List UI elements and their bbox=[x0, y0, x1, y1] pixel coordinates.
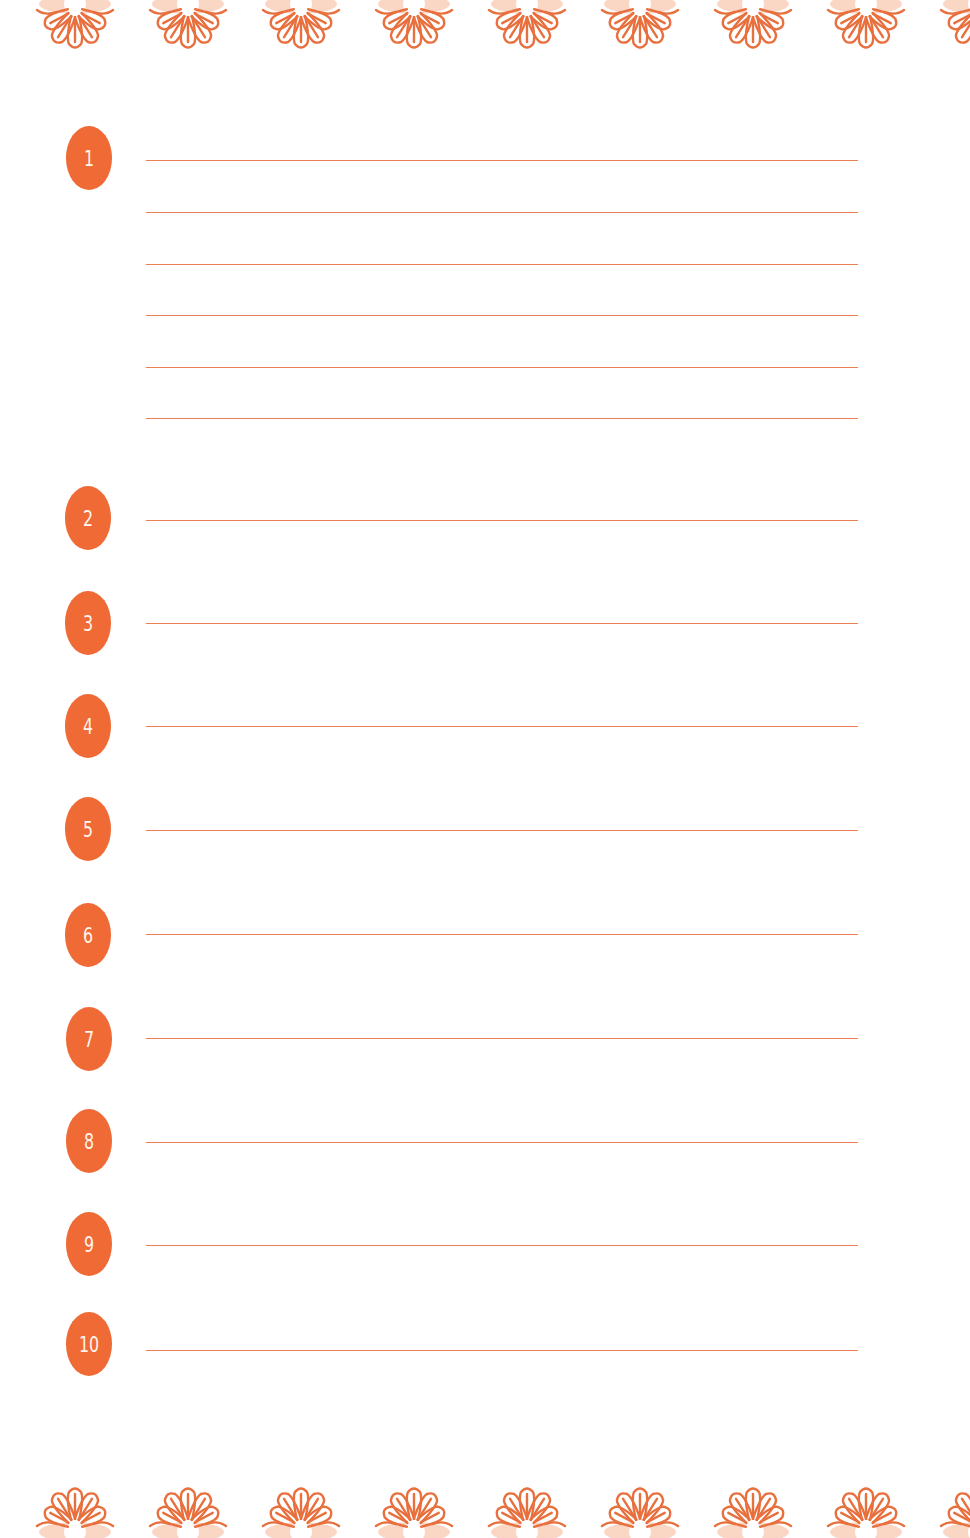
write-line-3[interactable] bbox=[146, 623, 858, 624]
write-line-1e[interactable] bbox=[146, 367, 858, 368]
write-line-10[interactable] bbox=[146, 1350, 858, 1351]
number-badge-7: 7 bbox=[66, 1007, 112, 1071]
number-badge-4: 4 bbox=[65, 694, 111, 758]
number-badge-10: 10 bbox=[66, 1312, 112, 1376]
write-line-7[interactable] bbox=[146, 1038, 858, 1039]
write-line-1b[interactable] bbox=[146, 212, 858, 213]
number-badge-6: 6 bbox=[65, 903, 111, 967]
write-line-1a[interactable] bbox=[146, 160, 858, 161]
write-line-1d[interactable] bbox=[146, 315, 858, 316]
write-line-2[interactable] bbox=[146, 520, 858, 521]
bottom-flower-border bbox=[0, 1470, 970, 1538]
write-line-1c[interactable] bbox=[146, 264, 858, 265]
write-line-5[interactable] bbox=[146, 830, 858, 831]
write-line-4[interactable] bbox=[146, 726, 858, 727]
number-badge-5: 5 bbox=[65, 797, 111, 861]
number-badge-3: 3 bbox=[65, 591, 111, 655]
number-badge-8: 8 bbox=[66, 1109, 112, 1173]
write-line-1f[interactable] bbox=[146, 418, 858, 419]
number-badge-9: 9 bbox=[66, 1212, 112, 1276]
number-badge-2: 2 bbox=[65, 486, 111, 550]
write-line-9[interactable] bbox=[146, 1245, 858, 1246]
top-flower-border bbox=[0, 0, 970, 62]
write-line-6[interactable] bbox=[146, 934, 858, 935]
number-badge-1: 1 bbox=[66, 126, 112, 190]
write-line-8[interactable] bbox=[146, 1142, 858, 1143]
